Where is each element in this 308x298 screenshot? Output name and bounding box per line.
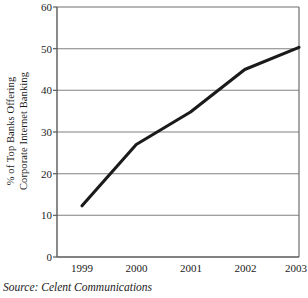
chart-figure: % of Top Banks Offering Corporate Intern… bbox=[0, 0, 308, 298]
source-note: Source: Celent Communications bbox=[3, 281, 152, 293]
x-tick-label: 1999 bbox=[58, 263, 106, 274]
x-tick-label: 2002 bbox=[222, 263, 270, 274]
x-tick-label: 2001 bbox=[167, 263, 215, 274]
x-tick-label: 2000 bbox=[113, 263, 161, 274]
x-tick-label: 2003 bbox=[272, 263, 308, 274]
x-axis-tick-labels: 1999 2000 2001 2002 2003 bbox=[0, 263, 308, 277]
plot-area bbox=[0, 0, 308, 298]
